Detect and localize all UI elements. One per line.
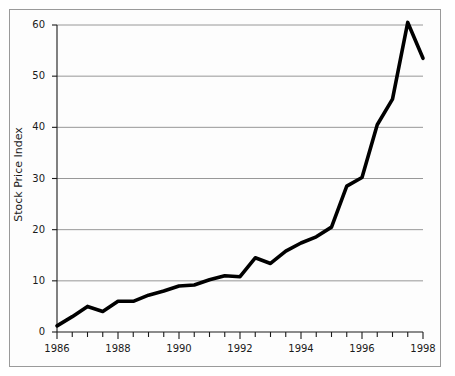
x-tick-label: 1996: [340, 344, 384, 354]
x-tick-label: 1990: [157, 344, 201, 354]
x-tick-label: 1986: [35, 344, 79, 354]
x-tick-label: 1998: [401, 344, 445, 354]
chart-figure: 0102030405060 19861988199019921994199619…: [0, 0, 455, 376]
x-tick-label: 1992: [218, 344, 262, 354]
x-tick-label: 1994: [279, 344, 323, 354]
x-major-ticks-group: [57, 332, 423, 339]
x-tick-label: 1988: [96, 344, 140, 354]
y-tick-label: 50: [19, 71, 45, 81]
data-series-line: [57, 22, 423, 325]
y-tick-label: 60: [19, 20, 45, 30]
y-tick-label: 10: [19, 276, 45, 286]
line-chart-plot: [0, 0, 455, 376]
y-axis-title: Stock Price Index: [12, 115, 25, 235]
y-tick-label: 0: [19, 327, 45, 337]
y-ticks-group: [52, 25, 57, 332]
